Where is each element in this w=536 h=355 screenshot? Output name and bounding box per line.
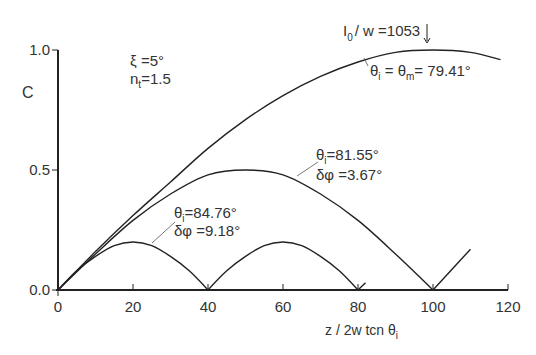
svg-text:0.0: 0.0 [29,281,50,298]
series-theta-81 [58,170,471,290]
svg-text:100: 100 [420,298,445,315]
annotation-mid: θi=81.55° δφ =3.67° [297,146,382,183]
svg-text:40: 40 [200,298,217,315]
annotation-low: θi=84.76° δφ =9.18° [152,204,240,243]
svg-text:20: 20 [125,298,142,315]
svg-text:120: 120 [495,298,520,315]
param-n: nt=1.5 [130,70,171,90]
y-tick-labels: 1.0 0.5 0.0 [29,41,50,298]
svg-text:θi=81.55°: θi=81.55° [316,146,379,166]
svg-text:60: 60 [275,298,292,315]
y-axis-label: C [22,84,34,101]
svg-text:δφ =3.67°: δφ =3.67° [316,166,382,183]
param-xi: ξ =5° [130,52,164,69]
x-axis-label: z / 2w tcn θi [325,322,398,341]
x-tick-labels: 0 20 40 60 80 100 120 [54,298,521,315]
svg-text:δφ =9.18°: δφ =9.18° [174,222,240,239]
svg-text:0.5: 0.5 [29,161,50,178]
series-theta-79 [58,50,501,290]
svg-text:θi = θm= 79.41°: θi = θm= 79.41° [370,62,471,82]
svg-text:0: 0 [54,298,62,315]
svg-text:1.0: 1.0 [29,41,50,58]
annotation-top: I0/ w =1053 θi = θm= 79.41° [343,22,471,82]
svg-text:I0/ w =1053: I0/ w =1053 [343,22,420,43]
chart: 1.0 0.5 0.0 0 20 40 60 80 100 120 C z / … [0,0,536,355]
svg-text:θi=84.76°: θi=84.76° [174,204,237,224]
series-lines [58,50,501,290]
series-theta-84 [58,242,366,290]
svg-text:80: 80 [350,298,367,315]
